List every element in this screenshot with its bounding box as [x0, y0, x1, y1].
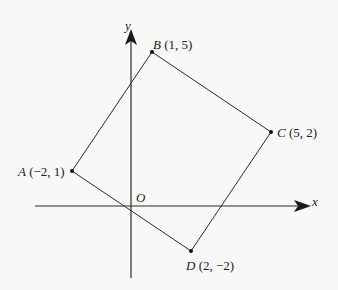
x-axis-label: x [312, 195, 318, 208]
quadrilateral-abcd [72, 52, 271, 251]
y-axis-label: y [125, 19, 131, 32]
point-b-coords: (1, 5) [164, 37, 192, 52]
point-b-name: B [153, 37, 161, 52]
point-d-coords: (2, −2) [199, 258, 235, 273]
point-a-dot [70, 169, 74, 173]
point-d-name: D [186, 258, 195, 273]
point-d-dot [189, 249, 193, 253]
origin-label: O [136, 191, 145, 204]
point-c-coords: (5, 2) [289, 125, 317, 140]
point-d-label: D (2, −2) [186, 259, 234, 272]
point-c-dot [269, 130, 273, 134]
point-a-name: A [18, 164, 26, 179]
coordinate-diagram: y x O B (1, 5) C (5, 2) A (−2, 1) D (2, … [0, 0, 338, 290]
point-a-label: A (−2, 1) [18, 165, 65, 178]
point-a-coords: (−2, 1) [29, 164, 65, 179]
point-b-label: B (1, 5) [153, 38, 192, 51]
point-c-name: C [277, 125, 286, 140]
point-c-label: C (5, 2) [277, 126, 317, 139]
